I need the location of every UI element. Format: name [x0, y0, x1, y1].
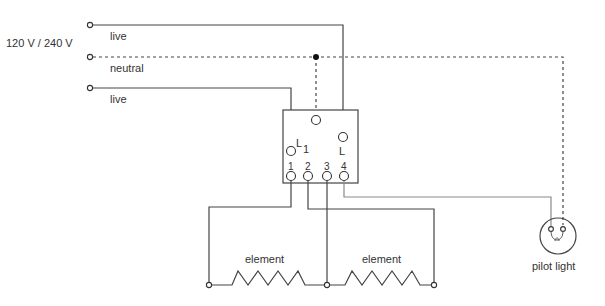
terminal-4-label: 4 — [341, 161, 347, 172]
node-left — [206, 282, 211, 287]
element-wiring — [209, 181, 551, 282]
live-top-label: live — [110, 30, 127, 42]
terminal-3-label: 3 — [324, 161, 330, 172]
terminal-L1-label: L — [296, 137, 302, 149]
terminal-1 — [287, 172, 296, 181]
terminal-3 — [323, 172, 332, 181]
terminal-2 — [304, 172, 313, 181]
terminal-L — [339, 133, 348, 142]
pilot-light-label: pilot light — [532, 260, 575, 272]
supply-voltage-label: 120 V / 240 V — [6, 37, 73, 49]
wiring-diagram: 120 V / 240 V live neutral live L L 1 1 … — [0, 0, 605, 306]
junction-dot — [313, 54, 319, 60]
terminal-1-label: 1 — [288, 161, 294, 172]
element-left-label: element — [245, 253, 284, 265]
node-right — [431, 282, 436, 287]
terminal-L1 — [287, 147, 296, 156]
node-middle — [324, 282, 329, 287]
pilot-light: pilot light — [532, 218, 576, 272]
neutral-label: neutral — [110, 62, 144, 74]
element-right-label: element — [362, 253, 401, 265]
heating-element-right: element — [330, 253, 431, 285]
switch-box: L L 1 1 2 3 4 — [283, 110, 358, 183]
live-wire-bottom: live — [87, 85, 291, 146]
terminal-4 — [340, 172, 349, 181]
terminal-L-label: L — [339, 145, 345, 157]
terminal-2-label: 2 — [305, 161, 311, 172]
neutral-terminal — [312, 116, 321, 125]
heating-element-left: element — [212, 253, 324, 285]
terminal-L1-subscript: 1 — [303, 143, 309, 155]
live-bottom-label: live — [110, 93, 127, 105]
